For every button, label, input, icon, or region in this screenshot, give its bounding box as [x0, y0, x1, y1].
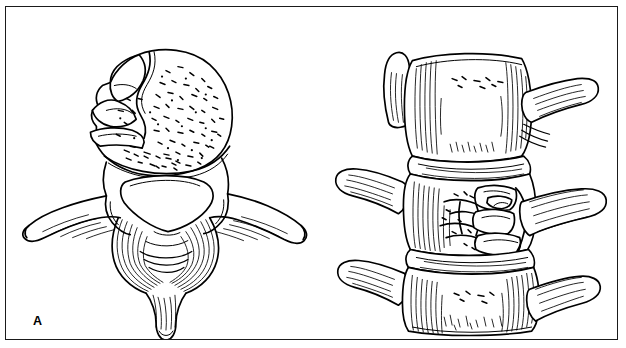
spinous-process-hatching [153, 295, 176, 330]
lower-left-transverse-process [338, 260, 409, 305]
panel-b-illustration [326, 7, 619, 339]
spinous-process-tip-shade [159, 331, 173, 335]
right-lamina-hatching [170, 220, 214, 292]
right-transverse-process [210, 158, 307, 243]
upper-vertebra-group [384, 52, 599, 162]
figure-root: A [0, 0, 626, 348]
right-transverse-hatching [216, 217, 288, 241]
panel-b: B [326, 7, 619, 339]
figure-frame: A [5, 6, 618, 340]
fractured-vertebra-group [336, 169, 607, 256]
lateral-spine-drawing [326, 7, 619, 339]
panel-a-label: A [33, 315, 42, 328]
left-lamina [112, 218, 146, 294]
arch-junction-detail [146, 232, 188, 246]
upper-vertebral-body [404, 54, 531, 162]
posterior-arch-group [23, 158, 307, 339]
axial-vertebra-drawing [6, 7, 326, 339]
vertebral-body-group [90, 50, 232, 179]
panel-a-illustration [6, 7, 326, 339]
panel-a: A [6, 7, 326, 339]
left-transverse-hatching [43, 215, 115, 239]
vertebral-foramen [121, 176, 213, 232]
left-lamina-hatching [117, 220, 163, 292]
upper-right-transverse-process [522, 78, 599, 122]
fracture-fragment-2 [473, 209, 515, 234]
middle-left-transverse-process [336, 169, 409, 214]
